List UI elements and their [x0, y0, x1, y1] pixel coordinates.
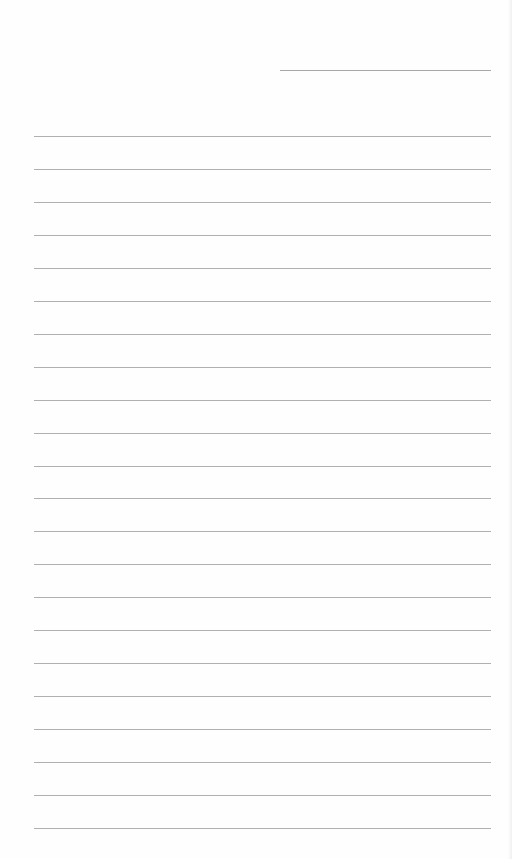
ruled-line — [34, 235, 491, 236]
ruled-line — [34, 531, 491, 532]
ruled-line — [34, 597, 491, 598]
ruled-line — [34, 663, 491, 664]
ruled-line — [34, 729, 491, 730]
ruled-line — [34, 136, 491, 137]
ruled-line — [34, 367, 491, 368]
ruled-line — [34, 795, 491, 796]
ruled-line — [34, 466, 491, 467]
ruled-line — [34, 498, 491, 499]
ruled-line — [34, 762, 491, 763]
ruled-line — [34, 696, 491, 697]
ruled-line — [34, 169, 491, 170]
ruled-line — [34, 630, 491, 631]
ruled-line — [34, 564, 491, 565]
ruled-line — [34, 400, 491, 401]
ruled-line — [34, 334, 491, 335]
ruled-line — [34, 433, 491, 434]
ruled-line — [34, 202, 491, 203]
ruled-line — [34, 828, 491, 829]
lined-paper-page — [0, 0, 512, 859]
page-edge-shadow — [508, 0, 512, 859]
header-name-line — [280, 70, 491, 71]
ruled-line — [34, 301, 491, 302]
ruled-line — [34, 268, 491, 269]
